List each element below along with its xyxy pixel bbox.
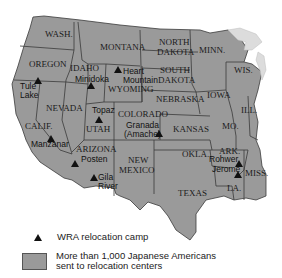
camp-marker-icon	[34, 234, 42, 241]
state-label-iowa: IOWA	[207, 90, 231, 100]
state-label-miss: MISS.	[245, 168, 268, 178]
svg-text:Topaz: Topaz	[92, 105, 115, 115]
svg-text:Mountain: Mountain	[123, 75, 158, 85]
svg-text:Rohwer: Rohwer	[209, 154, 238, 164]
state-label-nevada: NEVADA	[46, 103, 83, 113]
state-label-wyoming: WYOMING	[108, 84, 154, 94]
state-label-kansas: KANSAS	[173, 124, 209, 134]
state-label-oregon: OREGON	[29, 59, 67, 69]
state-label-new-mexico: NEW	[128, 155, 149, 165]
state-label-north-dakota-2: DAKOTA	[157, 47, 195, 57]
legend-camp-row: WRA relocation camp	[22, 232, 216, 242]
state-label-nebraska: NEBRASKA	[156, 94, 205, 104]
svg-text:Minidoka: Minidoka	[75, 74, 109, 84]
state-label-utah: UTAH	[86, 124, 111, 134]
state-label-okla: OKLA.	[182, 149, 209, 159]
state-label-south-dakota: SOUTH	[160, 65, 191, 75]
state-label-colorado: COLORADO	[118, 109, 169, 119]
state-label-wis: WIS.	[234, 65, 253, 75]
state-label-ill: ILL.	[241, 105, 257, 115]
state-label-north-dakota: NORTH	[159, 37, 190, 47]
state-label-montana: MONTANA	[100, 42, 146, 52]
state-label-minn: MINN.	[199, 45, 225, 55]
svg-text:Posten: Posten	[81, 154, 108, 164]
legend-camp-label: WRA relocation camp	[57, 232, 148, 242]
state-label-south-dakota-2: DAKOTA	[158, 75, 196, 85]
legend-area-row: More than 1,000 Japanese Americans sent …	[22, 251, 216, 271]
svg-text:(Amache): (Amache)	[124, 129, 161, 139]
camp-granada-amache: Granada (Amache)	[124, 120, 163, 139]
state-label-new-mexico-2: MEXICO	[119, 165, 155, 175]
state-label-calif: CALIF.	[25, 121, 53, 131]
state-label-wash: WASH.	[45, 29, 73, 39]
state-label-mo: MO.	[222, 121, 239, 131]
state-label-idaho: IDAHO	[70, 63, 99, 73]
state-label-texas: TEXAS	[178, 188, 207, 198]
state-label-arizona: ARIZONA	[76, 144, 117, 154]
legend-area-label: More than 1,000 Japanese Americans sent …	[56, 251, 216, 271]
state-label-la: LA.	[227, 183, 241, 193]
svg-text:Jerome: Jerome	[212, 164, 241, 174]
svg-text:Manzanar: Manzanar	[31, 139, 69, 149]
map-legend: WRA relocation camp More than 1,000 Japa…	[22, 232, 216, 271]
svg-text:Lake: Lake	[20, 90, 39, 100]
svg-text:River: River	[98, 181, 118, 191]
area-swatch	[22, 253, 47, 270]
